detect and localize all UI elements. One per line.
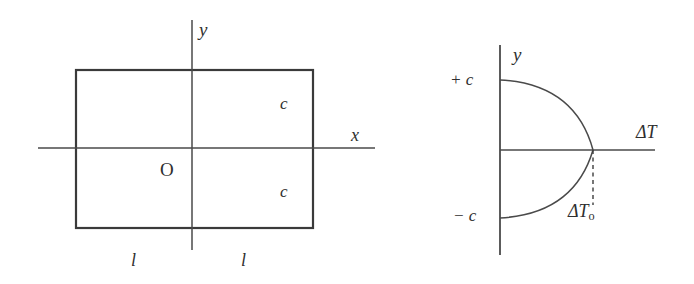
figure-root: y x O c c l l y + c − c ΔT ΔTo	[0, 0, 694, 284]
left-diagram-panel: y x O c c l l	[0, 0, 400, 284]
x-axis-label: x	[351, 126, 359, 144]
half-height-label-bottom: c	[280, 183, 288, 200]
origin-label: O	[160, 160, 174, 179]
upper-branch-value-label: + c	[450, 71, 473, 88]
upper-branch-curve	[500, 80, 593, 150]
y-axis-label: y	[199, 20, 207, 39]
critical-temperature-symbol: ΔT	[568, 201, 589, 221]
right-diagram-svg	[400, 0, 694, 284]
cross-section-rectangle	[76, 70, 313, 228]
left-diagram-svg	[0, 0, 400, 284]
critical-temperature-label: ΔTo	[568, 202, 595, 223]
critical-temperature-subscript: o	[589, 209, 595, 223]
y-axis-label: y	[513, 45, 521, 64]
lower-branch-value-label: − c	[453, 207, 476, 224]
right-diagram-panel: y + c − c ΔT ΔTo	[400, 0, 694, 284]
half-width-label-right: l	[241, 251, 246, 269]
half-width-label-left: l	[131, 251, 136, 269]
delta-t-axis-label: ΔT	[636, 123, 657, 141]
half-height-label-top: c	[280, 95, 288, 112]
